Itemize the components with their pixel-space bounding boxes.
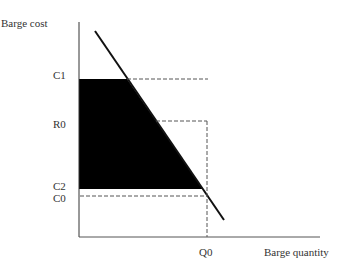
tick-r0: R0 (53, 118, 66, 130)
barge-cost-diagram (0, 0, 342, 267)
shaded-surplus-region (79, 79, 203, 189)
tick-c2: C2 (53, 180, 66, 192)
y-axis-label: Barge cost (1, 17, 48, 29)
x-axis-label: Barge quantity (264, 246, 329, 258)
tick-c1: C1 (53, 69, 66, 81)
tick-q0: Q0 (199, 246, 212, 258)
tick-c0: C0 (53, 192, 66, 204)
